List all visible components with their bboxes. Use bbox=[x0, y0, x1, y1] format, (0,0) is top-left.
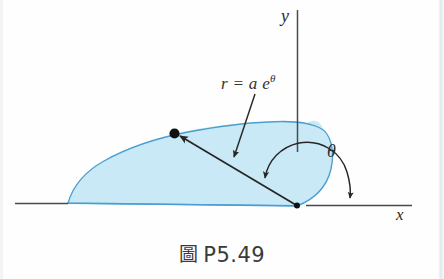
spiral-curve bbox=[68, 122, 333, 206]
figure-container: r = a eθ y x θ 圖P5.49 bbox=[0, 0, 444, 279]
spiral-region bbox=[68, 121, 333, 206]
equation-label-exponent: θ bbox=[270, 72, 276, 84]
origin-point bbox=[294, 203, 300, 209]
y-axis-label: y bbox=[281, 7, 289, 25]
spiral-diagram bbox=[0, 0, 444, 279]
equation-label: r = a eθ bbox=[221, 73, 276, 92]
x-axis-label: x bbox=[396, 206, 404, 223]
point-on-curve bbox=[169, 128, 179, 138]
figure-caption-symbol: 圖 bbox=[179, 243, 199, 265]
figure-caption: 圖P5.49 bbox=[0, 243, 444, 268]
figure-caption-number: P5.49 bbox=[203, 243, 265, 267]
theta-angle-label: θ bbox=[327, 142, 336, 160]
equation-label-base: r = a e bbox=[221, 74, 270, 93]
